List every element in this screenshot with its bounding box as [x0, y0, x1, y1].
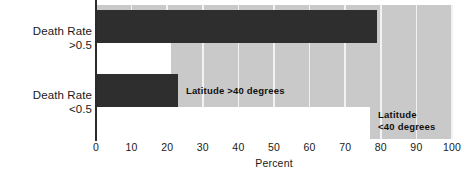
x-axis-tick-label: 0: [93, 141, 99, 153]
category-label-line1: Death Rate: [0, 89, 92, 103]
gridline: [451, 5, 453, 139]
plot-area: Latitude >40 degreesLatitude<40 degrees: [96, 5, 452, 139]
x-axis-tick-label: 30: [197, 141, 209, 153]
bar: [96, 107, 370, 140]
category-label-death-rate-lt05: Death Rate <0.5: [0, 89, 92, 116]
annotation-text: Latitude: [378, 109, 435, 121]
bar: [96, 43, 171, 76]
x-axis-tick-label: 10: [126, 141, 138, 153]
x-axis-title: Percent: [96, 157, 452, 169]
x-axis-tick-label: 50: [268, 141, 280, 153]
category-label-line1: Death Rate: [0, 25, 92, 39]
x-axis-tick-label: 90: [410, 141, 422, 153]
x-axis-tick-label: 100: [443, 141, 461, 153]
x-axis-tick-label: 40: [232, 141, 244, 153]
category-label-line2: <0.5: [0, 103, 92, 117]
annotation-text: <40 degrees: [378, 121, 435, 133]
annotation-latitude-lt40: Latitude<40 degrees: [378, 109, 435, 132]
category-label-death-rate-gt05: Death Rate >0.5: [0, 25, 92, 52]
annotation-text: Latitude >40 degrees: [186, 85, 285, 97]
x-axis-tick-labels: 0102030405060708090100: [96, 141, 452, 155]
x-axis-tick-label: 70: [339, 141, 351, 153]
x-axis-tick-label: 80: [375, 141, 387, 153]
bar: [96, 74, 178, 107]
x-axis-tick-label: 20: [161, 141, 173, 153]
bar-chart-figure: Death Rate >0.5 Death Rate <0.5 Latitude…: [0, 0, 471, 176]
category-label-line2: >0.5: [0, 39, 92, 53]
annotation-latitude-gt40: Latitude >40 degrees: [186, 85, 285, 97]
y-axis-line: [95, 0, 97, 141]
x-axis-tick-label: 60: [304, 141, 316, 153]
bar: [96, 10, 377, 43]
